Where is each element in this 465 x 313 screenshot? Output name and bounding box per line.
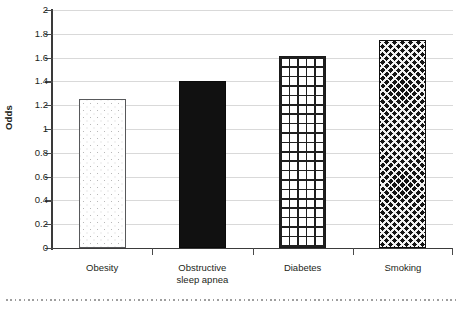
y-axis-tick-label: 1: [4, 124, 48, 134]
bar-diabetes: [279, 56, 326, 248]
plot-area: [52, 10, 453, 248]
bar-smoking: [379, 40, 426, 248]
x-axis-tick: [152, 248, 153, 255]
x-axis-tick: [253, 248, 254, 255]
bar-chart-figure: Odds 21.81.61.41.210.80.60.40.20ObesityO…: [0, 0, 465, 313]
x-axis-category-label-line: Diabetes: [253, 262, 353, 274]
y-axis-tick-label: 0.2: [4, 219, 48, 229]
y-axis-tick-label: 1.4: [4, 76, 48, 86]
y-axis-tick-label: 0.4: [4, 195, 48, 205]
y-axis-tick-label: 2: [4, 5, 48, 15]
x-axis-category-label: Obesity: [52, 262, 152, 274]
bottom-dotted-rule: [6, 299, 458, 301]
y-axis-tick-label: 1.6: [4, 53, 48, 63]
x-axis-category-label-line: Obstructive: [152, 262, 252, 274]
bar-obstructive-sleep-apnea: [179, 81, 226, 248]
x-axis-category-label-line: Obesity: [52, 262, 152, 274]
x-axis-category-label: Obstructivesleep apnea: [152, 262, 252, 285]
gridline: [52, 34, 453, 35]
y-axis-title: Odds: [3, 88, 14, 148]
x-axis-category-label-line: Smoking: [353, 262, 453, 274]
x-axis-category-label: Diabetes: [253, 262, 353, 274]
y-axis-tick-label: 0.6: [4, 172, 48, 182]
x-axis-tick: [353, 248, 354, 255]
y-axis-tick-label: 1.2: [4, 100, 48, 110]
gridline: [52, 10, 453, 11]
x-axis-tick: [452, 248, 453, 255]
y-axis-tick-label: 0: [4, 243, 48, 253]
y-axis-tick-label: 0.8: [4, 148, 48, 158]
x-axis-category-label-line: sleep apnea: [152, 274, 252, 286]
bar-obesity: [79, 99, 126, 248]
y-axis-tick-label: 1.8: [4, 29, 48, 39]
x-axis-category-label: Smoking: [353, 262, 453, 274]
